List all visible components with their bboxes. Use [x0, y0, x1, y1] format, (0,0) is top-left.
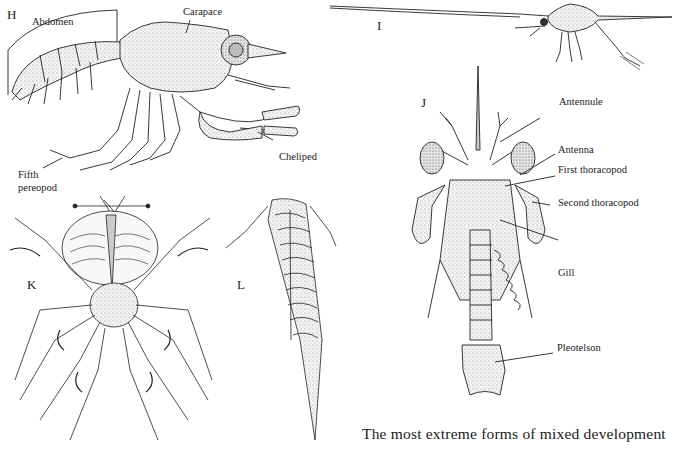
panel-j-drawing: [412, 66, 558, 395]
label-carapace: Carapace: [183, 6, 222, 18]
panel-k-drawing: [10, 196, 212, 440]
panel-letter-l: L: [237, 277, 245, 293]
panel-h-drawing: [8, 10, 300, 170]
label-gill: Gill: [558, 267, 574, 279]
label-second-thoracopod: Second thoracopod: [558, 197, 639, 209]
panel-letter-j: J: [421, 95, 426, 111]
figure-caption: The most extreme forms of mixed developm…: [362, 425, 666, 443]
panel-l-drawing: [226, 199, 336, 440]
panel-i-drawing: [330, 4, 672, 70]
panel-letter-i: I: [377, 18, 381, 34]
label-antennule: Antennule: [559, 96, 603, 108]
label-fifth-pereopod-line2: pereopod: [18, 182, 57, 194]
label-fifth-pereopod-line1: Fifth: [18, 169, 38, 181]
label-pleotelson: Pleotelson: [557, 342, 601, 354]
label-first-thoracopod: First thoracopod: [558, 164, 627, 176]
label-cheliped: Cheliped: [279, 151, 317, 163]
label-abdomen: Abdomen: [32, 16, 73, 28]
panel-letter-k: K: [27, 277, 36, 293]
label-antenna: Antenna: [558, 144, 594, 156]
illustration-canvas: [0, 0, 682, 451]
panel-letter-h: H: [7, 7, 16, 23]
